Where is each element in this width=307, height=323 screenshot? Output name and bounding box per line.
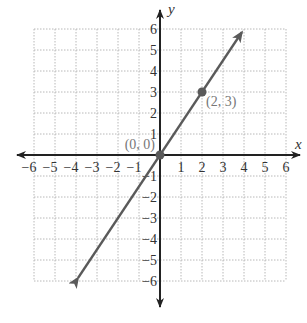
x-tick-label: 2 — [199, 160, 206, 175]
y-tick-label: −3 — [142, 211, 157, 226]
x-tick-label: −2 — [106, 160, 121, 175]
x-tick-label: −4 — [64, 160, 79, 175]
x-tick-label: −1 — [127, 160, 142, 175]
y-tick-label: −5 — [142, 253, 157, 268]
y-axis-label: y — [166, 1, 175, 17]
y-tick-label: 3 — [150, 85, 157, 100]
x-tick-label: −5 — [43, 160, 58, 175]
y-tick-label: 6 — [150, 22, 157, 37]
point-label: (2, 3) — [206, 94, 237, 110]
data-point — [156, 151, 165, 160]
x-tick-label: 5 — [262, 160, 269, 175]
x-tick-label: 4 — [241, 160, 248, 175]
point-label: (0, 0) — [125, 137, 156, 153]
coordinate-plane: −6−5−4−3−2−1123456 654321−1−2−3−4−5−6 x … — [0, 0, 307, 323]
y-tick-label: 2 — [150, 106, 157, 121]
y-tick-label: 5 — [150, 43, 157, 58]
x-tick-label: 1 — [178, 160, 185, 175]
x-axis-label: x — [294, 136, 302, 152]
y-tick-label: −6 — [142, 274, 157, 289]
x-tick-label: 6 — [283, 160, 290, 175]
x-tick-label: −6 — [22, 160, 37, 175]
y-tick-label: −4 — [142, 232, 157, 247]
x-tick-label: 3 — [220, 160, 227, 175]
y-tick-label: 4 — [150, 64, 157, 79]
y-tick-label: −2 — [142, 190, 157, 205]
x-tick-label: −3 — [85, 160, 100, 175]
